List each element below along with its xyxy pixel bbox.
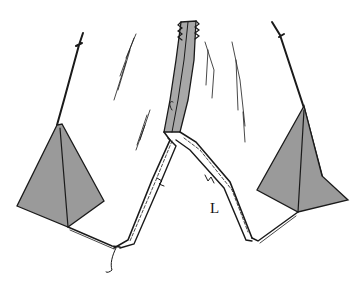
seam-diagram: [0, 0, 364, 282]
right-panel: [252, 22, 348, 243]
center-seam: [164, 21, 199, 132]
left-panel: [17, 33, 120, 249]
left-seam-band: [106, 132, 176, 272]
label-L: L: [210, 200, 219, 217]
right-seam-band: [176, 132, 252, 241]
